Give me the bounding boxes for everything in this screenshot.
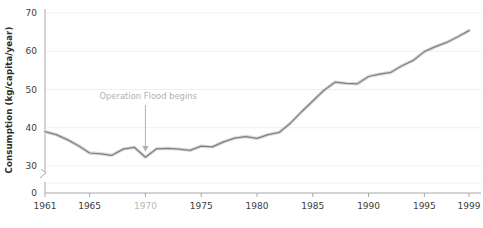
y-tick-label: 40 (26, 123, 38, 133)
x-tick-label: 1995 (413, 201, 436, 211)
x-axis-ticks: 196119651970197519801985199019951999 (34, 193, 481, 211)
annotation-arrow-head (142, 146, 148, 152)
x-tick-label: 1990 (357, 201, 380, 211)
x-tick-label: 1999 (458, 201, 481, 211)
annotation-label: Operation Flood begins (99, 91, 197, 101)
x-tick-label: 1985 (301, 201, 324, 211)
x-tick-label: 1980 (246, 201, 269, 211)
chart-svg: 03040506070 1961196519701975198019851990… (0, 0, 483, 228)
y-axis-ticks: 03040506070 (26, 8, 38, 198)
x-tick-label: 1970 (134, 201, 157, 211)
chart-container: Consumption (kg/capita/year) 03040506070… (0, 0, 483, 228)
y-tick-label: 50 (26, 85, 38, 95)
y-tick-label: 30 (26, 161, 38, 171)
y-tick-label: 0 (31, 188, 37, 198)
x-tick-label: 1975 (190, 201, 213, 211)
annotation-group: Operation Flood begins (99, 91, 197, 151)
y-tick-label: 70 (26, 8, 38, 18)
x-tick-label: 1965 (78, 201, 101, 211)
y-tick-label: 60 (26, 46, 38, 56)
x-tick-label: 1961 (34, 201, 57, 211)
